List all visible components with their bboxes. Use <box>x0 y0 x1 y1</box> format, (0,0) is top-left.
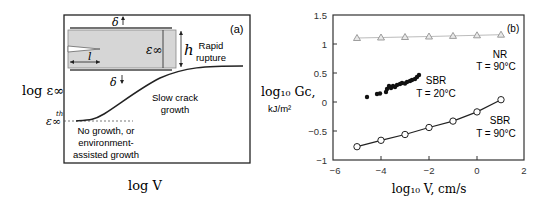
sbr90-label-2: T = 90°C <box>476 128 516 139</box>
panel-b: (b) 1.5 1 0.5 0 −0.5 −1 −6 −4 −2 0 2 <box>261 10 527 196</box>
series-sbr-20c <box>365 73 421 99</box>
panel-a-xlabel: log V <box>128 178 162 193</box>
nr-label-2: T = 90°C <box>476 61 516 72</box>
strain-label: ε∞ <box>146 43 162 57</box>
svg-text:−2: −2 <box>424 165 435 176</box>
specimen-inset: l ε∞ h δ δ <box>68 16 194 89</box>
panel-a: (a) l ε∞ h δ δ <box>22 15 250 193</box>
svg-text:−4: −4 <box>376 165 387 176</box>
svg-text:0: 0 <box>474 165 479 176</box>
sbr90-label-1: SBR <box>490 115 511 126</box>
delta-top-label: δ <box>112 16 119 29</box>
threshold-sup: th <box>56 110 63 118</box>
svg-text:0: 0 <box>322 97 327 108</box>
svg-text:0.5: 0.5 <box>314 68 327 79</box>
sbr20-label-1: SBR <box>426 75 447 86</box>
svg-text:−0.5: −0.5 <box>308 126 327 137</box>
x-axis-ticks: −6 −4 −2 0 2 <box>330 156 527 176</box>
svg-text:1.5: 1.5 <box>314 10 327 21</box>
svg-text:2: 2 <box>521 165 526 176</box>
series-sbr-90c <box>354 97 504 150</box>
slow-label-1: Slow crack <box>152 92 198 103</box>
series-nr-90c <box>354 31 505 40</box>
figure: (a) l ε∞ h δ δ <box>0 0 550 206</box>
nr-label-1: NR <box>493 49 507 60</box>
slow-label-2: growth <box>161 104 190 115</box>
svg-text:−1: −1 <box>316 155 327 166</box>
sbr20-label-2: T = 20°C <box>416 88 456 99</box>
svg-text:−6: −6 <box>330 165 341 176</box>
svg-text:1: 1 <box>322 39 327 50</box>
none-label-1: No growth, or <box>77 125 134 136</box>
crack-length-label: l <box>88 50 92 63</box>
rapid-label-2: rupture <box>196 52 226 63</box>
panel-a-ylabel: log ε∞ <box>22 83 64 98</box>
panel-b-label: (b) <box>507 23 519 34</box>
rapid-label-1: Rapid <box>199 40 224 51</box>
panel-a-label: (a) <box>230 23 243 35</box>
none-label-3: assisted growth <box>73 149 139 160</box>
none-label-2: environment- <box>78 137 133 148</box>
panel-b-ylabel-1: log₁₀ Gc, <box>261 84 315 99</box>
panel-b-xlabel: log₁₀ V, cm/s <box>392 182 467 196</box>
delta-bottom-label: δ <box>110 76 117 89</box>
panel-b-ylabel-2: kJ/m² <box>268 103 291 114</box>
height-label: h <box>184 41 194 59</box>
